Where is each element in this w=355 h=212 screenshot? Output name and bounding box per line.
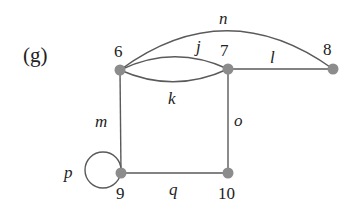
edge-label-o: o: [234, 111, 243, 130]
graph-diagram: (g) 6 7 8 9 10 j k l m n o p q: [0, 0, 355, 212]
vertex-label-9: 9: [116, 184, 125, 203]
vertex-label-8: 8: [323, 40, 332, 59]
edge-label-m: m: [95, 112, 107, 131]
edge-p-loop: [85, 152, 121, 188]
edge-label-q: q: [169, 180, 178, 199]
panel-label: (g): [23, 43, 48, 67]
vertex-6: [115, 65, 126, 76]
edge-k: [120, 69, 228, 82]
vertex-9: [116, 168, 127, 179]
vertex-10: [223, 168, 234, 179]
vertex-8: [328, 64, 339, 75]
edge-m: [120, 70, 121, 173]
edge-label-p: p: [63, 163, 73, 182]
vertex-label-6: 6: [114, 42, 123, 61]
edge-label-k: k: [168, 89, 176, 108]
edge-label-j: j: [194, 37, 201, 56]
vertex-label-10: 10: [218, 184, 235, 203]
edge-label-l: l: [270, 48, 275, 67]
vertex-7: [223, 64, 234, 75]
vertex-label-7: 7: [220, 41, 229, 60]
edge-label-n: n: [219, 9, 228, 28]
